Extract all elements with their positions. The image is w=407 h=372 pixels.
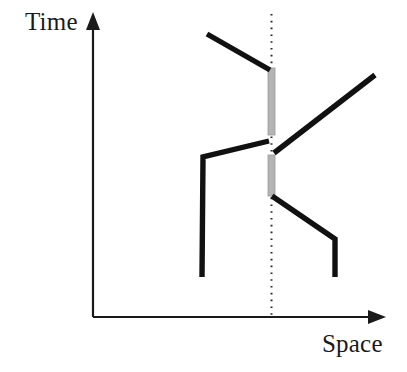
x-axis-arrowhead [368,310,386,324]
axes-group [86,12,386,324]
lower-gray-segment [268,155,275,196]
y-axis-arrowhead [86,12,100,30]
x-axis-label: Space [322,330,383,358]
gray-segments-group [268,68,275,196]
y-axis-label: Time [25,8,78,36]
incoming-upper-left-worldline [207,34,270,70]
outgoing-lower-right-worldline [272,196,335,277]
outgoing-upper-right-worldline [274,75,375,153]
worldlines-group [202,34,375,277]
diagram-canvas [0,0,407,372]
left-vertical-worldline [202,141,269,277]
upper-gray-segment [268,68,275,135]
spacetime-diagram: Time Space [0,0,407,372]
